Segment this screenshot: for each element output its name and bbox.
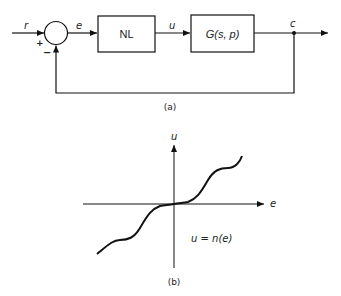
error-label-e: e (76, 20, 82, 31)
caption-a: (a) (164, 102, 177, 112)
control-label-u: u (169, 20, 175, 31)
feedback-path (56, 33, 294, 93)
nonlinearity-graph: e u u = n(e) (b) (83, 131, 276, 287)
block-diagram-figure: r + − e NL u G(s, p) c (a) e u (0, 0, 341, 296)
minus-sign: − (43, 47, 51, 58)
equation-label: u = n(e) (191, 233, 232, 244)
y-axis-label-u: u (171, 131, 177, 142)
x-axis-label-e: e (270, 198, 276, 209)
nl-block-label: NL (119, 28, 133, 40)
plant-block-label: G(s, p) (206, 28, 240, 40)
input-label-r: r (24, 20, 29, 31)
caption-b: (b) (168, 277, 181, 287)
feedback-loop-diagram: r + − e NL u G(s, p) c (a) (12, 15, 328, 112)
summing-junction (45, 22, 68, 45)
output-label-c: c (290, 18, 296, 29)
